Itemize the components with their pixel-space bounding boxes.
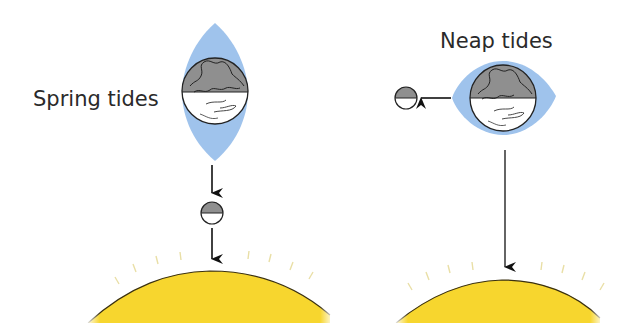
spring-sun-icon [86,251,334,323]
neap-tides-label: Neap tides [440,29,553,53]
spring-tides-label: Spring tides [33,87,159,111]
tides-diagram: Spring tides [0,0,619,323]
spring-tides-panel: Spring tides [33,23,334,323]
neap-moon-icon [394,86,418,109]
neap-sun-icon [394,262,604,323]
neap-tides-panel: Neap tides [394,29,604,323]
spring-moon-icon [200,201,224,224]
